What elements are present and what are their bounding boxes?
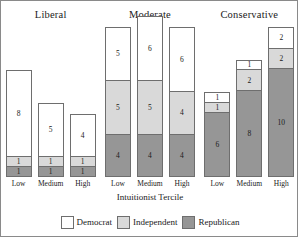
bar-segment-independent[interactable]: 2 <box>236 69 262 91</box>
bar-segment-democrat[interactable]: 6 <box>137 16 163 81</box>
bar-segment-value: 1 <box>17 158 21 166</box>
x-axis-title: Intuitionist Tercile <box>1 191 298 203</box>
bar-segment-republican[interactable]: 1 <box>38 166 64 177</box>
bar-segment-value: 8 <box>247 130 251 138</box>
bar-segment-value: 1 <box>215 104 219 112</box>
legend-label: Republican <box>198 216 239 229</box>
bar-segment-value: 1 <box>49 168 53 176</box>
bar-segment-republican[interactable]: 4 <box>105 134 131 177</box>
bar-segment-independent[interactable]: 5 <box>105 80 131 134</box>
legend-item-democrat[interactable]: Democrat <box>61 216 112 229</box>
bar-segment-democrat[interactable]: 6 <box>169 27 195 92</box>
bar-segment-value: 1 <box>17 168 21 176</box>
bar-segment-value: 5 <box>49 126 53 134</box>
bar-segment-republican[interactable]: 1 <box>70 166 96 177</box>
bar-segment-value: 4 <box>81 132 85 140</box>
legend-label: Independent <box>133 216 177 229</box>
bar-segment-value: 6 <box>180 56 184 64</box>
stacked-bar[interactable]: 654 <box>137 16 163 177</box>
bar-segment-republican[interactable]: 4 <box>169 134 195 177</box>
x-tick-label: Medium <box>236 178 262 190</box>
bar-segment-democrat[interactable]: 4 <box>70 114 96 157</box>
bar-segment-value: 4 <box>148 152 152 160</box>
x-tick-label: Medium <box>137 178 163 190</box>
bar-segment-democrat[interactable]: 5 <box>105 27 131 81</box>
plot-area: 8115114115546546441161282210 <box>1 25 298 177</box>
x-tick-label: Low <box>105 178 131 190</box>
bar-segment-value: 4 <box>180 152 184 160</box>
facet-liberal: 811511411 <box>1 25 100 177</box>
x-tick-label: Low <box>6 178 32 190</box>
stacked-bar[interactable]: 116 <box>204 92 230 177</box>
facet-title-conservative: Conservative <box>200 7 298 23</box>
x-tick-label: High <box>70 178 96 190</box>
x-tick-label-row: LowMediumHighLowMediumHighLowMediumHigh <box>1 178 298 190</box>
bar-segment-value: 1 <box>215 94 219 102</box>
legend-item-republican[interactable]: Republican <box>182 216 239 229</box>
bar-segment-republican[interactable]: 1 <box>6 166 32 177</box>
legend-swatch-independent <box>117 216 130 229</box>
stacked-bar[interactable]: 644 <box>169 27 195 177</box>
bar-segment-independent[interactable]: 4 <box>169 91 195 134</box>
tick-group-conservative: LowMediumHigh <box>200 178 298 190</box>
bar-segment-value: 8 <box>17 110 21 118</box>
facet-moderate: 554654644 <box>100 25 199 177</box>
stacked-bar[interactable]: 411 <box>70 114 96 177</box>
facet-conservative: 1161282210 <box>200 25 298 177</box>
stacked-bar[interactable]: 128 <box>236 60 262 177</box>
x-tick-label: High <box>268 178 294 190</box>
x-tick-label: High <box>169 178 195 190</box>
bar-segment-republican[interactable]: 8 <box>236 90 262 177</box>
stacked-bar[interactable]: 811 <box>6 70 32 177</box>
chart-figure: LiberalModerateConservative 811511411554… <box>0 0 298 237</box>
stacked-bar[interactable]: 2210 <box>268 27 294 177</box>
bar-segment-value: 1 <box>81 158 85 166</box>
facet-title-liberal: Liberal <box>1 7 100 23</box>
bar-segment-value: 5 <box>116 104 120 112</box>
bar-segment-republican[interactable]: 6 <box>204 112 230 177</box>
bar-segment-democrat[interactable]: 2 <box>268 27 294 49</box>
x-tick-label: Low <box>204 178 230 190</box>
bar-segment-democrat[interactable]: 8 <box>6 70 32 157</box>
bar-segment-democrat[interactable]: 5 <box>38 103 64 157</box>
tick-group-moderate: LowMediumHigh <box>100 178 199 190</box>
bar-segment-value: 5 <box>116 50 120 58</box>
bar-segment-value: 1 <box>49 158 53 166</box>
bar-segment-value: 5 <box>148 104 152 112</box>
legend-item-independent[interactable]: Independent <box>117 216 177 229</box>
bar-segment-value: 2 <box>279 55 283 63</box>
bar-segment-independent[interactable]: 2 <box>268 48 294 70</box>
bar-segment-value: 10 <box>278 119 286 127</box>
bar-segment-value: 4 <box>180 109 184 117</box>
legend-swatch-democrat <box>61 216 74 229</box>
stacked-bar[interactable]: 511 <box>38 103 64 177</box>
bar-segment-value: 2 <box>279 34 283 42</box>
bar-segment-value: 4 <box>116 152 120 160</box>
bar-segment-value: 1 <box>81 168 85 176</box>
bar-segment-value: 6 <box>215 141 219 149</box>
x-tick-label: Medium <box>38 178 64 190</box>
legend: DemocratIndependentRepublican <box>1 213 298 231</box>
bar-segment-independent[interactable]: 5 <box>137 80 163 134</box>
bar-segment-value: 6 <box>148 45 152 53</box>
bar-segment-value: 2 <box>247 77 251 85</box>
bar-segment-value: 1 <box>247 61 251 69</box>
bar-segment-republican[interactable]: 4 <box>137 134 163 177</box>
legend-swatch-republican <box>182 216 195 229</box>
bar-segment-republican[interactable]: 10 <box>268 68 294 177</box>
tick-group-liberal: LowMediumHigh <box>1 178 100 190</box>
legend-label: Democrat <box>77 216 112 229</box>
stacked-bar[interactable]: 554 <box>105 27 131 177</box>
